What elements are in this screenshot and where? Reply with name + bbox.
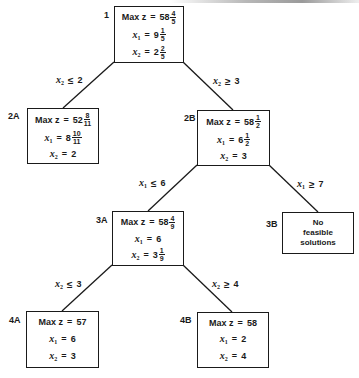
x2-value: x2= 3 [220, 150, 246, 162]
edge-label-3A-4B: x2 ≥ 4 [212, 278, 239, 290]
edge-label-1-2B: x2 ≥ 3 [213, 75, 240, 87]
x1-value: x1= 6 [49, 333, 75, 345]
objective-value: Max z= 52 811 [35, 112, 91, 127]
node-id-4A: 4A [9, 315, 21, 325]
x2-value: x2= 2 25 [132, 45, 165, 60]
x2-value: x2= 3 19 [131, 247, 164, 262]
node-id-4B: 4B [180, 315, 192, 325]
objective-value: Max z= 58 [209, 318, 257, 328]
edge-label-2B-3B: x1 ≥ 7 [297, 178, 324, 190]
x1-value: x1= 2 [220, 333, 246, 345]
node-id-3B: 3B [266, 219, 278, 229]
node-1: Max z= 58 45 x1= 9 15 x2= 2 25 [114, 6, 184, 63]
objective-value: Max z= 58 45 [122, 10, 177, 25]
node-2B: Max z= 58 12 x1= 6 12 x2= 3 [197, 110, 270, 166]
objective-value: Max z= 58 12 [206, 114, 261, 129]
node-3A: Max z= 58 49 x1= 6 x2= 3 19 [112, 211, 184, 266]
x2-value: x2= 2 [50, 148, 76, 160]
node-id-2A: 2A [8, 111, 20, 121]
node-id-1: 1 [104, 10, 109, 20]
x1-value: x1= 8 1011 [44, 130, 81, 145]
infeasible-message: No feasible solutions [300, 218, 336, 248]
objective-value: Max z= 58 49 [121, 215, 176, 230]
x1-value: x1= 9 15 [132, 27, 165, 42]
node-4A: Max z= 57 x1= 6 x2= 3 [26, 311, 99, 368]
edge-label-2B-3A: x1 ≤ 6 [139, 177, 166, 189]
edge-label-1-2A: x2 ≤ 2 [56, 74, 83, 86]
node-3B: No feasible solutions [282, 212, 354, 254]
x1-value: x1= 6 [135, 233, 161, 245]
objective-value: Max z= 57 [39, 317, 87, 327]
x1-value: x1= 6 12 [217, 132, 250, 147]
x2-value: x2= 4 [220, 350, 246, 362]
node-id-2B: 2B [184, 113, 196, 123]
node-id-3A: 3A [96, 215, 108, 225]
edge-label-3A-4A: x2 ≤ 3 [55, 278, 82, 290]
node-4B: Max z= 58 x1= 2 x2= 4 [197, 312, 269, 368]
x2-value: x2= 3 [49, 350, 75, 362]
node-2A: Max z= 52 811 x1= 8 1011 x2= 2 [27, 108, 99, 164]
